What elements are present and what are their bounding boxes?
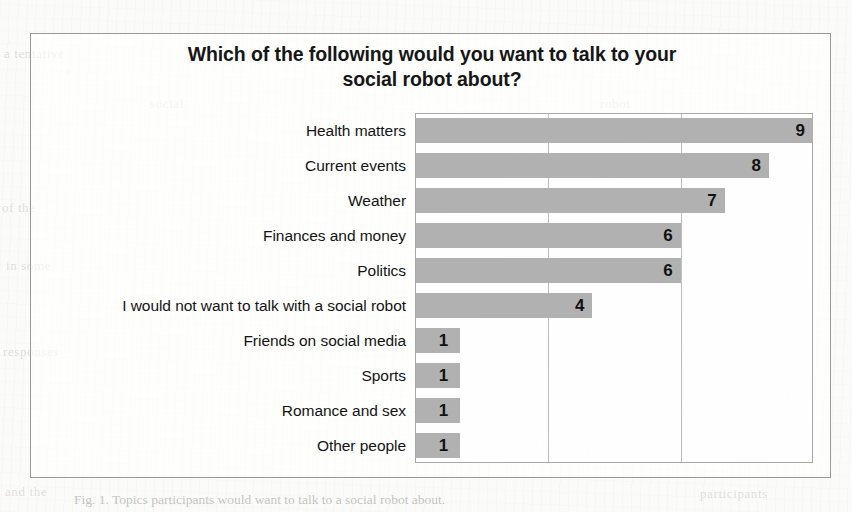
- bar-value-label: 6: [659, 226, 673, 245]
- bar-track: 4: [416, 293, 813, 318]
- bar-value-label: 8: [747, 156, 761, 175]
- bar-value-label: 1: [434, 331, 448, 350]
- bar-track: 1: [416, 363, 813, 388]
- bar-value-label: 1: [434, 436, 448, 455]
- bar-row: I would not want to talk with a social r…: [0, 288, 852, 323]
- chart-title-line-2: social robot about?: [127, 67, 737, 92]
- chart-title-line-1: Which of the following would you want to…: [127, 42, 737, 67]
- bar[interactable]: [416, 118, 813, 143]
- bar-track: 9: [416, 118, 813, 143]
- category-label: I would not want to talk with a social r…: [26, 297, 406, 315]
- bar-row: Weather7: [0, 183, 852, 218]
- bar-track: 6: [416, 258, 813, 283]
- bar-row: Current events8: [0, 148, 852, 183]
- bar-rows: Health matters9Current events8Weather7Fi…: [0, 113, 852, 463]
- category-label: Other people: [26, 437, 406, 455]
- category-label: Friends on social media: [26, 332, 406, 350]
- bar-row: Friends on social media1: [0, 323, 852, 358]
- bar-track: 1: [416, 433, 813, 458]
- bar[interactable]: [416, 223, 681, 248]
- figure-caption-text: Fig. 1. Topics participants would want t…: [74, 492, 774, 508]
- bar-row: Politics6: [0, 253, 852, 288]
- bar[interactable]: [416, 153, 769, 178]
- bar-row: Sports1: [0, 358, 852, 393]
- bar-value-label: 1: [434, 401, 448, 420]
- category-label: Current events: [26, 157, 406, 175]
- bar[interactable]: [416, 258, 681, 283]
- category-label: Romance and sex: [26, 402, 406, 420]
- category-label: Finances and money: [26, 227, 406, 245]
- bar-track: 1: [416, 398, 813, 423]
- bar-track: 6: [416, 223, 813, 248]
- bar-row: Romance and sex1: [0, 393, 852, 428]
- figure-caption: Fig. 1. Topics participants would want t…: [74, 492, 774, 512]
- bar-row: Finances and money6: [0, 218, 852, 253]
- bar[interactable]: [416, 188, 725, 213]
- bar-value-label: 7: [703, 191, 717, 210]
- bar-track: 7: [416, 188, 813, 213]
- bar-value-label: 9: [791, 121, 805, 140]
- bar-track: 8: [416, 153, 813, 178]
- bar-value-label: 6: [659, 261, 673, 280]
- category-label: Sports: [26, 367, 406, 385]
- bleedthrough-artifact: participants: [700, 486, 768, 502]
- bar-value-label: 1: [434, 366, 448, 385]
- screenshot-canvas: a tentative of the in some responses rob…: [0, 0, 852, 512]
- chart-title: Which of the following would you want to…: [127, 42, 737, 92]
- bar-track: 1: [416, 328, 813, 353]
- category-label: Weather: [26, 192, 406, 210]
- bar-row: Health matters9: [0, 113, 852, 148]
- bar-row: Other people1: [0, 428, 852, 463]
- category-label: Politics: [26, 262, 406, 280]
- category-label: Health matters: [26, 122, 406, 140]
- bar[interactable]: [416, 293, 592, 318]
- bleedthrough-artifact: and the: [5, 484, 47, 500]
- bar-value-label: 4: [570, 296, 584, 315]
